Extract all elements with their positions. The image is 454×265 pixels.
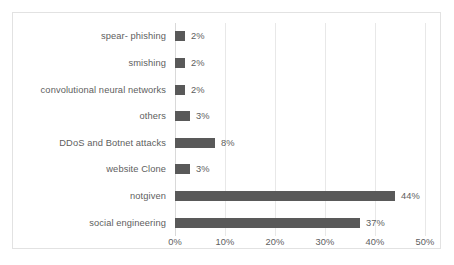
x-tick-label: 0%: [168, 237, 182, 247]
bar-row: spear- phishing2%: [175, 23, 425, 50]
bar: [175, 218, 360, 228]
bar: [175, 164, 190, 174]
x-tick-label: 50%: [416, 237, 435, 247]
bar-value-label: 44%: [401, 191, 420, 201]
bar-row: DDoS and Botnet attacks8%: [175, 130, 425, 157]
x-tick-label: 10%: [216, 237, 235, 247]
x-tick-label: 20%: [266, 237, 285, 247]
bar-value-label: 2%: [191, 31, 205, 41]
category-label: notgiven: [130, 191, 166, 201]
bar: [175, 31, 185, 41]
bar: [175, 111, 190, 121]
bar-row: convolutional neural networks2%: [175, 76, 425, 103]
category-label: convolutional neural networks: [41, 85, 166, 95]
bar-value-label: 3%: [196, 111, 210, 121]
category-label: spear- phishing: [101, 31, 166, 41]
bar: [175, 58, 185, 68]
plot-area: spear- phishing2%smishing2%convolutional…: [175, 23, 425, 236]
bar: [175, 85, 185, 95]
category-label: DDoS and Botnet attacks: [59, 138, 166, 148]
category-label: website Clone: [106, 164, 166, 174]
bar-row: website Clone3%: [175, 156, 425, 183]
x-axis: 0%10%20%30%40%50%: [175, 237, 425, 253]
bar-row: social engineering37%: [175, 209, 425, 236]
bar-row: others3%: [175, 103, 425, 130]
bar-value-label: 37%: [366, 218, 385, 228]
bar-value-label: 3%: [196, 164, 210, 174]
category-label: smishing: [129, 58, 166, 68]
bar-value-label: 2%: [191, 58, 205, 68]
category-label: others: [140, 111, 166, 121]
category-label: social engineering: [89, 218, 166, 228]
bar-row: notgiven44%: [175, 183, 425, 210]
x-tick-label: 40%: [366, 237, 385, 247]
x-tick-label: 30%: [316, 237, 335, 247]
bar-row: smishing2%: [175, 50, 425, 77]
bar-value-label: 8%: [221, 138, 235, 148]
bar: [175, 191, 395, 201]
chart-container: spear- phishing2%smishing2%convolutional…: [12, 12, 441, 249]
gridline-50%: [425, 23, 426, 236]
bar: [175, 138, 215, 148]
bar-series: spear- phishing2%smishing2%convolutional…: [175, 23, 425, 236]
bar-value-label: 2%: [191, 85, 205, 95]
